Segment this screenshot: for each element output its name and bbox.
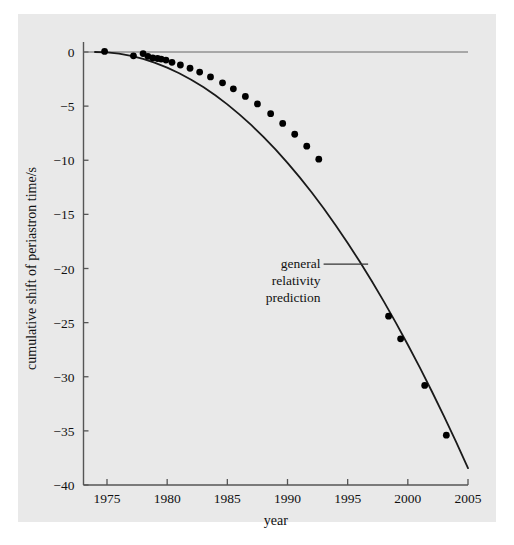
data-point <box>207 74 214 81</box>
annotation-line-2: prediction <box>266 290 321 305</box>
data-point <box>177 62 184 69</box>
y-tick-label-4: −20 <box>53 262 74 277</box>
data-point <box>303 143 310 150</box>
data-point <box>163 57 170 64</box>
data-point <box>421 382 428 389</box>
x-tick-label-4: 1995 <box>334 491 361 506</box>
x-tick-label-2: 1985 <box>214 491 241 506</box>
data-point <box>267 110 274 117</box>
x-tick-label-5: 2000 <box>394 491 421 506</box>
y-tick-label-8: −40 <box>53 478 74 493</box>
orbital-decay-chart: 0−5−10−15−20−25−30−35−401975198019851990… <box>0 0 514 545</box>
data-point <box>219 79 226 86</box>
data-point <box>315 156 322 163</box>
data-point <box>443 432 450 439</box>
data-point <box>291 131 298 138</box>
y-axis-title: cumulative shift of periastron time/s <box>24 167 39 370</box>
x-tick-label-0: 1975 <box>94 491 121 506</box>
data-point <box>187 65 194 72</box>
annotation-line-0: general <box>281 256 321 271</box>
x-tick-label-1: 1980 <box>154 491 181 506</box>
annotation-general-relativity-prediction: generalrelativityprediction <box>266 256 321 305</box>
data-point <box>242 93 249 100</box>
y-tick-label-3: −15 <box>53 207 74 222</box>
y-tick-label-5: −25 <box>53 316 74 331</box>
data-point <box>230 85 237 92</box>
y-tick-label-6: −30 <box>53 370 74 385</box>
x-axis-title: year <box>264 513 288 528</box>
annotation-line-1: relativity <box>272 273 321 288</box>
y-tick-label-0: 0 <box>68 45 75 60</box>
data-point-group <box>101 48 450 439</box>
y-tick-label-2: −10 <box>53 153 74 168</box>
figure-container: 0−5−10−15−20−25−30−35−401975198019851990… <box>0 0 514 545</box>
data-point <box>169 59 176 66</box>
data-point <box>385 313 392 320</box>
x-tick-label-6: 2005 <box>455 491 482 506</box>
data-point <box>130 52 137 59</box>
y-tick-label-1: −5 <box>60 99 75 114</box>
data-point <box>279 120 286 127</box>
data-point <box>397 335 404 342</box>
data-point <box>101 48 108 55</box>
data-point <box>196 69 203 76</box>
x-tick-label-3: 1990 <box>274 491 301 506</box>
y-tick-label-7: −35 <box>53 424 74 439</box>
data-point <box>254 101 261 108</box>
